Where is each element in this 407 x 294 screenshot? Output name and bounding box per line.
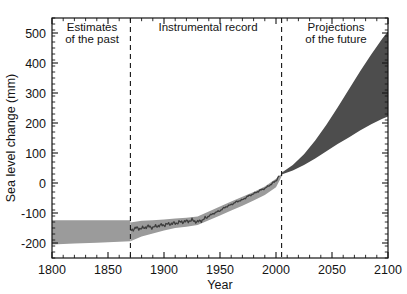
annotation-instrumental-record: Instrumental record <box>158 21 257 33</box>
y-tick-label-300: 300 <box>25 87 46 101</box>
sea-level-change-figure: 1800185019001950200020502100-200-1000100… <box>0 0 407 294</box>
x-tick-label-2050: 2050 <box>318 263 346 277</box>
x-tick-label-2100: 2100 <box>374 263 402 277</box>
annotation-estimates-of-the-past-line2: of the past <box>65 33 120 45</box>
y-tick-label-200: 200 <box>25 117 46 131</box>
annotation-estimates-of-the-past-line1: Estimates <box>67 21 118 33</box>
y-tick-label-0: 0 <box>39 177 46 191</box>
annotation-projections-of-the-future-line1: Projections <box>308 21 365 33</box>
series-band-0 <box>52 220 130 244</box>
y-tick-label-100: 100 <box>25 147 46 161</box>
x-tick-label-1900: 1900 <box>150 263 178 277</box>
y-axis-title: Sea level change (mm) <box>4 74 18 203</box>
y-tick-label--200: -200 <box>21 237 46 251</box>
chart-canvas: 1800185019001950200020502100-200-1000100… <box>0 0 407 294</box>
x-tick-label-1950: 1950 <box>206 263 234 277</box>
x-tick-label-1850: 1850 <box>94 263 122 277</box>
y-tick-label-500: 500 <box>25 27 46 41</box>
y-tick-label--100: -100 <box>21 207 46 221</box>
annotation-projections-of-the-future-line2: of the future <box>305 33 366 45</box>
x-tick-label-1800: 1800 <box>38 263 66 277</box>
x-axis-title: Year <box>207 278 232 292</box>
y-tick-label-400: 400 <box>25 57 46 71</box>
x-tick-label-2000: 2000 <box>262 263 290 277</box>
